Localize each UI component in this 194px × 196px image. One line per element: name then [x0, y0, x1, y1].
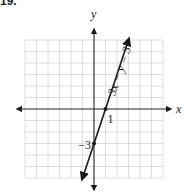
- data-point: [92, 142, 96, 146]
- x-axis-label: x: [175, 102, 182, 116]
- y-axis-label: y: [90, 7, 97, 21]
- point-label: 1: [108, 112, 114, 126]
- point-label: −3: [78, 138, 91, 152]
- equation-label: 3x − y = 3: [104, 45, 134, 99]
- data-point: [104, 107, 108, 111]
- axes: [17, 29, 171, 190]
- chart: 1−3xy3x − y = 3: [0, 0, 194, 196]
